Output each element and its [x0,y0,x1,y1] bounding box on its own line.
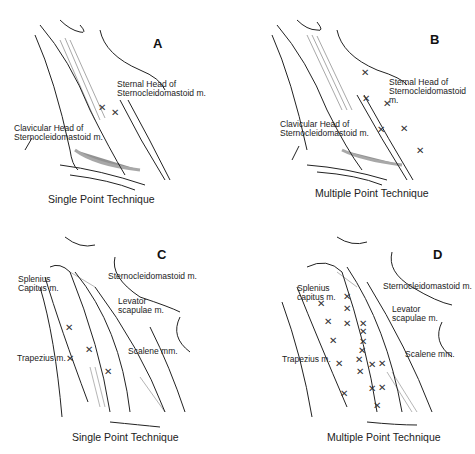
label-levator-scapulae: Levator scapulae m. [392,305,438,323]
label-trapezius: Trapezius m. [17,354,66,363]
panel-label: D [433,247,442,262]
panel-label: A [153,36,162,51]
injection-marker: ✕ [317,299,325,309]
neck-illustration-c [0,227,237,454]
panel-label: B [430,32,439,47]
panel-b: B Sternal Head of Sternocleidomastoid m.… [237,0,474,227]
injection-marker: ✕ [329,336,337,346]
injection-marker: ✕ [66,354,74,364]
injection-marker: ✕ [343,304,351,314]
label-trapezius: Trapezius m. [282,355,331,364]
injection-marker: ✕ [335,359,343,369]
panel-label: C [157,247,166,262]
injection-marker: ✕ [400,124,408,134]
injection-marker: ✕ [343,292,351,302]
injection-marker: ✕ [383,99,391,109]
panel-c: C Splenius Capitus m. Sternocleidomastoi… [0,227,237,454]
injection-marker: ✕ [85,345,93,355]
label-clavicular-head: Clavicular Head of Sternocleidomastoid m… [280,120,369,138]
injection-marker: ✕ [104,367,112,377]
panel-caption: Multiple Point Technique [327,431,441,443]
panel-caption: Single Point Technique [48,193,155,205]
panel-caption: Single Point Technique [72,431,179,443]
injection-marker: ✕ [324,317,332,327]
panel-a: A Sternal Head of Sternocleidomastoid m.… [0,0,237,227]
label-sternal-head: Sternal Head of Sternocleidomastoid m. [389,78,474,105]
injection-marker: ✕ [340,389,348,399]
label-scalene: Scalene mm. [405,350,455,359]
label-scalene: Scalene mm. [128,347,178,356]
label-sternocleidomastoid: Sternocleidomastoid m. [108,272,197,281]
injection-marker: ✕ [98,103,106,113]
panel-d: D Splenius capitus m. Sternocleidomastoi… [237,227,474,454]
label-sternocleidomastoid: Sternocleidomastoid m. [383,282,472,291]
injection-marker: ✕ [368,384,376,394]
injection-marker: ✕ [416,146,424,156]
injection-marker: ✕ [373,401,381,411]
injection-marker: ✕ [361,68,369,78]
injection-marker: ✕ [343,319,351,329]
label-clavicular-head: Clavicular Head of Sternocleidomastoid m… [14,124,103,142]
panel-caption: Multiple Point Technique [315,187,429,199]
label-splenius-capitus: Splenius Capitus m. [18,275,59,293]
injection-marker: ✕ [65,323,73,333]
injection-marker: ✕ [378,359,386,369]
injection-marker: ✕ [368,360,376,370]
injection-marker: ✕ [377,125,385,135]
label-levator-scapulae: Levator scapulae m. [118,297,164,315]
injection-marker: ✕ [111,108,119,118]
injection-marker: ✕ [355,355,363,365]
injection-marker: ✕ [356,367,364,377]
injection-marker: ✕ [362,94,370,104]
label-sternal-head: Sternal Head of Sternocleidomastoid m. [117,80,206,98]
injection-marker: ✕ [378,383,386,393]
